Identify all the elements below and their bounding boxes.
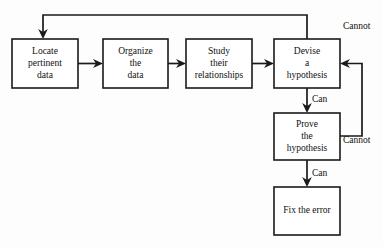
node-locate-line-3: data (37, 70, 54, 80)
edge-prove-cannot-to-devise (340, 59, 362, 136)
node-study-line-3: relationships (195, 70, 244, 80)
edge-study-to-devise (252, 59, 274, 68)
edge-devise-to-prove (302, 88, 312, 113)
node-organize-the-data[interactable]: Organize the data (103, 39, 168, 88)
node-prove-the-hypothesis[interactable]: Prove the hypothesis (274, 113, 340, 160)
node-devise-line-3: hypothesis (287, 70, 328, 80)
node-prove-line-2: the (301, 131, 313, 141)
edge-label-cannot-top: Cannot (343, 21, 371, 31)
node-study-line-2: their (210, 58, 228, 68)
edge-locate-to-organize (78, 59, 103, 68)
node-fix-line-1: Fix the error (283, 205, 331, 215)
flowchart-svg: Locate pertinent data Organize the data … (0, 0, 383, 247)
node-locate-line-2: pertinent (28, 58, 62, 68)
edge-devise-cannot-to-locate (38, 15, 307, 39)
node-study-line-1: Study (208, 46, 230, 56)
node-organize-line-2: the (130, 58, 142, 68)
edge-organize-to-study (168, 59, 186, 68)
node-organize-line-3: data (128, 70, 145, 80)
edge-label-can-prove-fix: Can (312, 168, 328, 178)
node-devise-line-1: Devise (294, 46, 320, 56)
node-study-their-relationships[interactable]: Study their relationships (186, 39, 252, 88)
edge-prove-to-fix (302, 160, 312, 187)
node-organize-line-1: Organize (118, 46, 153, 56)
edge-label-can-devise-prove: Can (312, 94, 328, 104)
edge-label-cannot-prove: Cannot (343, 135, 371, 145)
node-devise-a-hypothesis[interactable]: Devise a hypothesis (274, 39, 340, 88)
node-locate-pertinent-data[interactable]: Locate pertinent data (12, 39, 78, 88)
node-prove-line-3: hypothesis (287, 143, 328, 153)
node-locate-line-1: Locate (32, 46, 58, 56)
node-fix-the-error[interactable]: Fix the error (274, 187, 340, 235)
flowchart-page: Locate pertinent data Organize the data … (0, 0, 383, 247)
node-prove-line-1: Prove (296, 119, 318, 129)
